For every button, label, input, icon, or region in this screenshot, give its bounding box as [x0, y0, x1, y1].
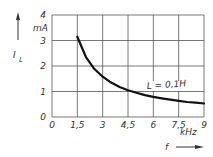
- arrow-right-icon: [195, 145, 204, 149]
- y-tick-label: 2: [40, 61, 46, 71]
- y-tick-label: 4: [40, 10, 46, 20]
- arrow-up-icon: [16, 12, 20, 20]
- x-unit: kHz: [180, 127, 197, 137]
- tick-labels: 01,534,567,5901234: [40, 10, 207, 130]
- x-axis-label: f: [165, 142, 204, 152]
- y-axis-label: I L: [13, 12, 23, 64]
- y-tick-label: 3: [40, 36, 46, 46]
- y-tick-label: 1: [40, 87, 46, 97]
- y-subscript: L: [19, 56, 23, 64]
- x-tick-label: 0: [49, 120, 55, 130]
- x-symbol: f: [165, 142, 170, 152]
- x-tick-label: 6: [150, 120, 156, 130]
- series-line: [77, 37, 204, 104]
- x-tick-label: 4,5: [121, 120, 136, 130]
- chart: 01,534,567,5901234 I L mA kHz f L = 0,1H: [0, 0, 213, 157]
- y-tick-label: 0: [40, 112, 46, 122]
- y-symbol: I: [13, 50, 16, 60]
- x-tick-label: 1,5: [70, 120, 85, 130]
- data-curve: [77, 37, 204, 104]
- x-tick-label: 3: [100, 120, 106, 130]
- x-tick-label: 9: [201, 120, 207, 130]
- y-unit: mA: [33, 23, 48, 33]
